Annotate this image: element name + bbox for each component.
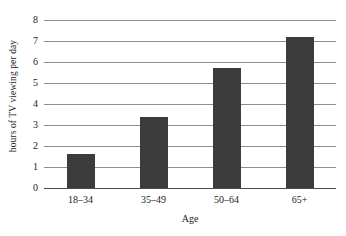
y-axis-tick-label: 6 [24,56,38,68]
y-axis-title: hours of TV viewing per day [6,2,20,190]
y-axis-tick-label: 7 [24,35,38,47]
x-axis-title: Age [44,212,336,226]
plot-area [44,20,336,188]
bar [67,154,95,188]
bar [213,68,241,188]
bar [286,37,314,188]
bar [140,117,168,188]
bar-chart: hours of TV viewing per day 012345678 18… [0,0,346,236]
y-axis-tick-label: 8 [24,14,38,26]
x-axis-tick-label: 35–49 [117,193,190,207]
y-axis-tick-label: 3 [24,119,38,131]
y-axis-tick-label: 2 [24,140,38,152]
y-axis-tick-label: 1 [24,161,38,173]
y-axis-tick-label: 0 [24,182,38,194]
x-axis-tick-label: 65+ [263,193,336,207]
x-axis-tick-label: 50–64 [190,193,263,207]
y-axis-tick-label: 4 [24,98,38,110]
y-axis-tick-label: 5 [24,77,38,89]
x-axis-tick-label: 18–34 [44,193,117,207]
